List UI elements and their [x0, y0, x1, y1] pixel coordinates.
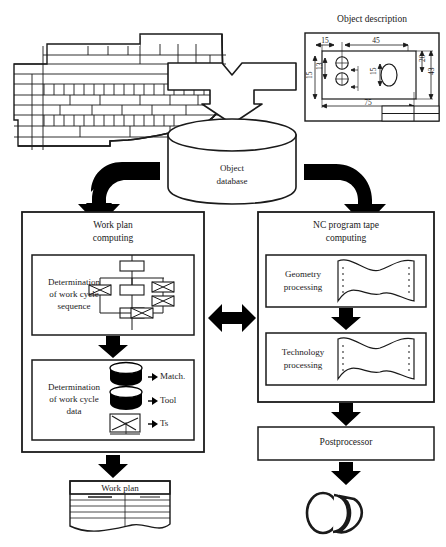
dimension-bottom: 75: [360, 99, 376, 107]
diagram-vector-layer: [0, 0, 446, 547]
determination-sequence-label-line3: sequence: [34, 301, 114, 311]
geometry-processing-label-line1: Geometry: [270, 269, 336, 279]
nc-program-title-line2: computing: [258, 233, 434, 244]
geometry-processing-label-line2: processing: [270, 282, 336, 292]
determination-data-label-line1: Determination: [34, 382, 114, 392]
dimension-right-inner: 20: [419, 50, 427, 66]
object-description-title: Object description: [305, 14, 439, 25]
object-database-label-line2: database: [168, 176, 296, 186]
arrow-down-to-work-plan: [98, 455, 128, 478]
dimension-left-outer: 15: [306, 67, 314, 83]
dimension-top-right: 45: [368, 37, 384, 45]
dimension-right-outer: 43: [428, 63, 436, 79]
tape-roll-icon: [307, 493, 362, 533]
determination-data-label-line2: of work cycle: [34, 394, 114, 404]
dimension-center-vertical: 15: [370, 63, 378, 79]
tool-label: Tool: [160, 395, 200, 405]
postprocessor-label: Postprocessor: [258, 437, 434, 448]
determination-sequence-label-line1: Determination: [34, 277, 114, 287]
dimension-top-left: 15: [317, 37, 333, 45]
determination-sequence-label-line2: of work cycle: [34, 289, 114, 299]
work-plan-computing-title-line2: computing: [22, 233, 204, 244]
nc-program-title-line1: NC program tape: [258, 220, 434, 231]
technology-processing-label-line1: Technology: [269, 347, 337, 357]
match-label: Match.: [160, 371, 200, 381]
technology-processing-label-line2: processing: [269, 360, 337, 370]
dimension-left-inner: 13: [316, 58, 324, 74]
work-plan-computing-title-line1: Work plan: [22, 220, 204, 231]
diagram-canvas: Object description 15 45 15 13 15 20 43 …: [0, 0, 446, 547]
determination-data-label-line3: data: [34, 406, 114, 416]
arrow-down-to-postprocessor: [331, 403, 361, 426]
object-database-cylinder: [168, 119, 296, 204]
object-database-label-line1: Object: [168, 163, 296, 173]
arrow-down-to-tape-roll: [331, 462, 361, 485]
ts-label: Ts: [160, 418, 200, 428]
bidirectional-arrow: [208, 304, 256, 332]
work-plan-document-label: Work plan: [70, 483, 170, 493]
